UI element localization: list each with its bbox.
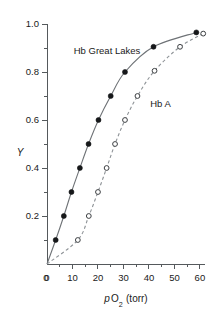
series-label-2: Hb A: [150, 98, 171, 109]
data-point-marker: [96, 190, 101, 195]
y-axis-tick-label: 0.2: [26, 210, 39, 221]
data-point-marker: [86, 214, 91, 219]
x-axis-tick-label: 20: [93, 272, 104, 283]
x-axis-tick-label: 10: [67, 272, 78, 283]
data-point-marker: [122, 70, 127, 75]
x-axis-tick-label: 60: [195, 272, 206, 283]
data-point-marker: [96, 118, 101, 123]
data-point-marker: [151, 44, 156, 49]
data-point-marker: [53, 238, 58, 243]
data-point-marker: [123, 118, 128, 123]
y-axis-tick-label: 0.6: [26, 114, 39, 125]
series-curve-2: [47, 34, 203, 264]
y-axis-tick-label: 0.4: [26, 162, 39, 173]
data-point-marker: [201, 31, 206, 36]
chart-plot-area: 0.20.40.60.81.00102030405060YpO2(torr)0H…: [0, 0, 217, 317]
x-axis-origin-label: 0: [43, 272, 48, 283]
y-axis-tick-label: 0.8: [26, 66, 39, 77]
data-point-marker: [113, 142, 118, 147]
series-label-1: Hb Great Lakes: [74, 45, 141, 56]
y-axis-title: Y: [17, 147, 25, 158]
data-point-marker: [178, 44, 183, 49]
data-point-marker: [194, 30, 199, 35]
x-axis-tick-label: 50: [169, 272, 180, 283]
x-axis-title: pO2(torr): [103, 293, 147, 309]
x-axis-tick-label: 30: [118, 272, 129, 283]
data-point-marker: [77, 166, 82, 171]
data-point-marker: [61, 214, 66, 219]
data-point-marker: [108, 94, 113, 99]
data-point-marker: [135, 94, 140, 99]
data-point-marker: [152, 68, 157, 73]
oxygen-binding-chart: 0.20.40.60.81.00102030405060YpO2(torr)0H…: [0, 0, 217, 317]
data-point-marker: [104, 166, 109, 171]
x-axis-tick-label: 40: [144, 272, 155, 283]
data-point-marker: [69, 190, 74, 195]
data-point-marker: [86, 142, 91, 147]
series-curve-1: [47, 32, 196, 264]
data-point-marker: [75, 238, 80, 243]
y-axis-tick-label: 1.0: [26, 18, 39, 29]
